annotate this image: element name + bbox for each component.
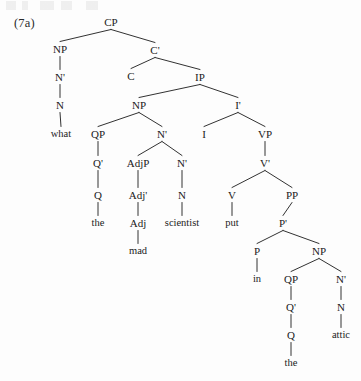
branch-cp-to-cbar [111,30,155,43]
branch-nbar2-to-adjp [138,142,162,156]
branch-nbar2-to-nbar3 [162,142,182,156]
tree-node-q1: Q [94,190,102,201]
branch-ip-to-np2 [139,85,200,98]
branch-cbar-to-c [131,58,155,69]
tree-node-mad: mad [129,246,147,257]
branch-vbar-to-pp [265,171,292,188]
tree-node-qbar1: Q' [93,158,103,169]
branch-pbar-to-np3 [283,231,319,244]
tree-node-in: in [253,274,261,285]
tree-node-the2: the [285,358,298,369]
tree-node-attic: attic [332,330,350,341]
tree-node-pbar: P' [279,218,287,229]
tree-node-n1: N [56,100,64,111]
tree-node-cp: CP [104,17,117,28]
branch-cbar-to-ip [155,58,200,70]
branch-np3-to-qp2 [291,259,319,272]
tree-node-adj: Adj [130,218,147,229]
tree-node-n2: N [178,190,186,201]
tree-node-pp: PP [286,190,298,201]
branch-np2-to-qp1 [98,113,139,127]
tree-node-qp1: QP [91,129,105,140]
branch-np2-to-nbar2 [139,113,162,127]
tree-node-scientist: scientist [165,218,199,229]
tree-node-cbar: C' [150,45,159,56]
branch-ip-to-ibar [200,85,238,98]
tree-node-n3: N [337,302,345,313]
tree-node-nbar1: N' [55,72,65,83]
branch-n1-to-what [60,113,61,127]
tree-node-v: V [228,190,236,201]
tree-node-c: C [127,71,134,82]
branch-ibar-to-i [204,113,238,127]
branch-pbar-to-p [257,231,283,244]
tree-node-vbar: V' [260,158,270,169]
tree-node-adjp: AdjP [127,158,150,169]
tree-node-np3: NP [312,246,326,257]
tree-node-nbar4: N' [336,274,346,285]
tree-node-q2: Q [287,330,295,341]
tree-node-qbar2: Q' [286,302,296,313]
syntax-tree-figure: (7a) CPNPC'N'CIPNNPI'whatQPN'IVPQ'AdjPN'… [0,0,361,381]
tree-node-np1: NP [53,44,67,55]
tree-node-i: I [202,129,206,140]
tree-node-ip: IP [195,72,205,83]
tree-node-put: put [225,218,238,229]
tree-node-nbar2: N' [157,129,167,140]
tree-node-what: what [51,129,71,140]
tree-node-the1: the [92,218,105,229]
tree-node-p: P [254,246,260,257]
branch-np3-to-nbar4 [319,259,341,272]
branch-pp-to-pbar [283,203,292,216]
tree-node-qp2: QP [284,274,298,285]
branch-cp-to-np1 [60,30,111,42]
branch-vbar-to-v [232,171,265,188]
branch-ibar-to-vp [238,113,265,127]
tree-node-ibar: I' [235,100,241,111]
tree-node-adjbar: Adj' [129,190,147,201]
tree-node-vp: VP [258,129,272,140]
tree-node-np2: NP [132,100,146,111]
tree-node-nbar3: N' [177,158,187,169]
